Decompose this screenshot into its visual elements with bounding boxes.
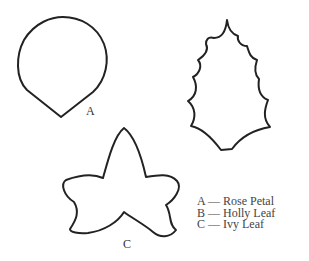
legend: A — Rose Petal B — Holly Leaf C — Ivy Le…	[197, 196, 275, 231]
legend-item-ivy-leaf: C — Ivy Leaf	[197, 219, 275, 231]
ivy-leaf-shape	[63, 128, 179, 236]
pattern-diagram: A C A — Rose Petal B — Holly Leaf C — Iv…	[0, 0, 309, 261]
label-c: C	[123, 237, 131, 252]
holly-leaf-shape	[188, 20, 270, 150]
label-a: A	[86, 104, 95, 119]
rose-petal-shape	[18, 17, 107, 117]
